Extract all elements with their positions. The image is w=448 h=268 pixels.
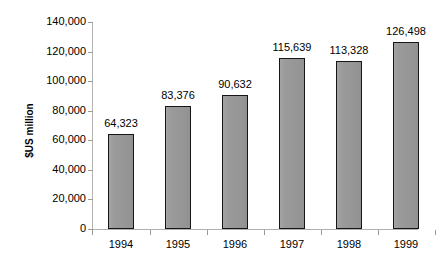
- x-tick-label: 1995: [148, 239, 208, 250]
- x-tick-label: 1998: [319, 239, 379, 250]
- y-tick-label: 120,000: [30, 46, 86, 57]
- y-tick-label: 140,000: [30, 16, 86, 27]
- y-tick-label: 100,000: [30, 75, 86, 86]
- x-tick-label: 1996: [205, 239, 265, 250]
- y-tick-label: 80,000: [30, 105, 86, 116]
- x-tick-label: 1994: [91, 239, 151, 250]
- y-tick-label: 40,000: [30, 164, 86, 175]
- bar-chart: $US million 020,00040,00060,00080,000100…: [0, 0, 448, 268]
- y-tick-label: 60,000: [30, 134, 86, 145]
- x-axis-tick-labels: 199419951996199719981999: [92, 0, 448, 268]
- y-axis-tick-labels: 020,00040,00060,00080,000100,000120,0001…: [30, 0, 86, 268]
- x-tick-label: 1997: [262, 239, 322, 250]
- y-tick-label: 20,000: [30, 193, 86, 204]
- y-tick-label: 0: [30, 223, 86, 234]
- x-tick-label: 1999: [376, 239, 436, 250]
